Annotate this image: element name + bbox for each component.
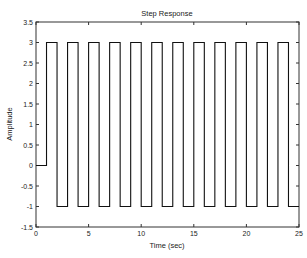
x-tick-label: 5 bbox=[87, 230, 91, 237]
chart-title: Step Response bbox=[141, 9, 192, 18]
y-tick-label: 2.5 bbox=[23, 60, 33, 67]
plot-area bbox=[36, 22, 299, 227]
y-axis-label: Amplitude bbox=[5, 107, 14, 140]
y-tick-label: 0 bbox=[29, 162, 33, 169]
y-tick-label: 3 bbox=[29, 39, 33, 46]
x-axis: 0510152025 bbox=[34, 22, 303, 237]
x-tick-label: 20 bbox=[243, 230, 251, 237]
step-response-chart: Step Response 0510152025 -1.5-1-0.500.51… bbox=[0, 0, 307, 258]
step-response-line bbox=[36, 43, 299, 207]
y-tick-label: 3.5 bbox=[23, 19, 33, 26]
y-tick-label: 0.5 bbox=[23, 142, 33, 149]
y-tick-label: 2 bbox=[29, 80, 33, 87]
x-tick-label: 10 bbox=[137, 230, 145, 237]
y-tick-label: 1 bbox=[29, 121, 33, 128]
y-tick-label: -0.5 bbox=[21, 183, 33, 190]
y-tick-label: -1.5 bbox=[21, 224, 33, 231]
x-tick-label: 25 bbox=[295, 230, 303, 237]
y-tick-label: -1 bbox=[27, 203, 33, 210]
x-tick-label: 15 bbox=[190, 230, 198, 237]
x-tick-label: 0 bbox=[34, 230, 38, 237]
y-tick-label: 1.5 bbox=[23, 101, 33, 108]
x-axis-label: Time (sec) bbox=[149, 241, 185, 250]
